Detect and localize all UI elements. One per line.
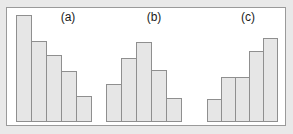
bar [46, 55, 62, 122]
bar [76, 96, 92, 122]
bar [263, 38, 278, 122]
bar-series-c [207, 9, 278, 122]
bar [136, 42, 152, 122]
bar [106, 84, 122, 122]
chart-group-a: (a) [16, 9, 98, 122]
bar [151, 70, 167, 122]
bar [221, 77, 236, 122]
bar [31, 41, 47, 122]
chart-group-b: (b) [106, 9, 188, 122]
bar [207, 99, 222, 122]
bar [249, 51, 264, 122]
figure-panel: (a) (b) (c) [6, 7, 286, 126]
bar-series-b [106, 9, 182, 122]
chart-group-c: (c) [207, 9, 282, 122]
bar-series-a [16, 9, 92, 122]
bar [16, 15, 32, 122]
bar [166, 98, 182, 122]
bar [121, 58, 137, 122]
bar [235, 77, 250, 122]
bar [61, 71, 77, 122]
